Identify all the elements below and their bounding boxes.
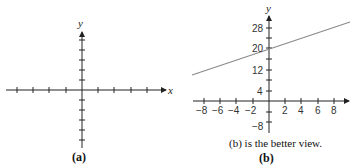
y-axis-label-b: y — [265, 2, 271, 14]
svg-text:−6: −6 — [212, 105, 224, 116]
x-tick-labels-b: −8 −6 −4 −2 2 4 6 8 — [196, 105, 337, 116]
svg-text:−8: −8 — [196, 105, 208, 116]
x-axis-label-a: x — [167, 84, 173, 96]
svg-text:28: 28 — [252, 23, 264, 34]
figure: x y (a) −8 — [0, 0, 352, 168]
svg-text:4: 4 — [257, 86, 263, 97]
y-axis-label-a: y — [77, 17, 83, 29]
panel-a: x y (a) — [6, 17, 173, 164]
caption-b: (b) is the better view. — [229, 137, 322, 150]
svg-text:12: 12 — [252, 65, 264, 76]
panel-b: −8 −6 −4 −2 2 4 6 8 28 20 12 4 −8 y (b) … — [192, 2, 350, 165]
svg-text:−4: −4 — [228, 105, 240, 116]
svg-text:−2: −2 — [245, 105, 257, 116]
panel-label-a: (a) — [72, 150, 86, 164]
panel-label-b: (b) — [259, 151, 274, 165]
svg-text:−8: −8 — [252, 121, 264, 132]
svg-text:20: 20 — [252, 43, 264, 54]
graph-line — [192, 22, 350, 75]
svg-text:8: 8 — [331, 105, 337, 116]
svg-text:4: 4 — [298, 105, 304, 116]
svg-text:2: 2 — [282, 105, 288, 116]
svg-text:6: 6 — [315, 105, 321, 116]
